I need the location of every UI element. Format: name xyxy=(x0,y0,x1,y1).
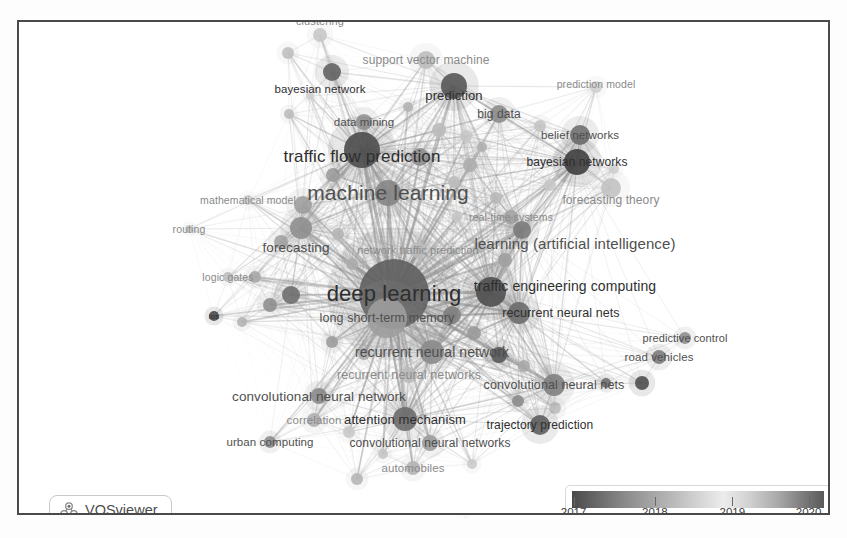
color-scale-legend: 2017201820192020 xyxy=(565,485,830,515)
node-unlabeled[interactable] xyxy=(237,317,247,327)
node-unlabeled[interactable] xyxy=(474,241,486,253)
legend-tick-2019 xyxy=(732,497,733,506)
node-prediction-model[interactable] xyxy=(590,81,602,93)
vosviewer-badge[interactable]: VOSviewer xyxy=(49,495,172,515)
node-unlabeled[interactable] xyxy=(512,395,524,407)
node-unlabeled[interactable] xyxy=(326,336,338,348)
node-correlation[interactable] xyxy=(307,413,321,427)
node-long-short-term-memory[interactable] xyxy=(367,298,407,338)
node-unlabeled[interactable] xyxy=(411,148,429,166)
node-unlabeled[interactable] xyxy=(249,271,261,283)
node-clustering[interactable] xyxy=(313,28,327,42)
network-edge xyxy=(248,114,289,200)
node-ios[interactable] xyxy=(209,311,219,321)
node-unlabeled[interactable] xyxy=(432,123,446,137)
network-graph xyxy=(19,22,828,513)
node-bayesian-network[interactable] xyxy=(323,63,341,81)
node-recurrent-neural-network[interactable] xyxy=(420,340,444,364)
node-unlabeled[interactable] xyxy=(448,176,460,188)
node-unlabeled[interactable] xyxy=(351,473,363,485)
node-unlabeled[interactable] xyxy=(378,449,388,459)
node-convolutional-neural-nets[interactable] xyxy=(543,374,565,396)
legend-tick-2017 xyxy=(574,497,575,506)
node-unlabeled[interactable] xyxy=(518,360,530,372)
network-edge xyxy=(214,316,270,442)
legend-label-2019: 2019 xyxy=(720,506,746,515)
legend-label-2020: 2020 xyxy=(796,506,822,515)
node-mathematical-model[interactable] xyxy=(243,195,253,205)
node-predictive-control[interactable] xyxy=(679,332,691,344)
node-support-vector-machine[interactable] xyxy=(417,51,435,69)
node-bayesian-networks[interactable] xyxy=(564,149,590,175)
legend-tick-2018 xyxy=(655,497,656,506)
node-convolutional-neural-networks[interactable] xyxy=(422,435,438,451)
node-trajectory-prediction[interactable] xyxy=(530,415,550,435)
node-unlabeled[interactable] xyxy=(467,459,477,469)
node-unlabeled[interactable] xyxy=(534,120,546,132)
node-unlabeled[interactable] xyxy=(498,253,512,267)
node-unlabeled[interactable] xyxy=(306,92,314,100)
legend-gradient-bar xyxy=(572,491,824,508)
vosviewer-badge-label: VOSviewer xyxy=(85,502,158,515)
map-frame: clusteringsupport vector machinebayesian… xyxy=(17,20,830,515)
network-edge xyxy=(214,316,314,420)
node-forecasting[interactable] xyxy=(290,217,312,239)
node-recurrent-neural-networks[interactable] xyxy=(401,367,417,383)
vosviewer-logo-icon xyxy=(59,500,79,515)
node-unlabeled[interactable] xyxy=(601,378,611,388)
network-edge xyxy=(214,316,319,396)
node-convolutional-neural-network[interactable] xyxy=(311,388,327,404)
node-unlabeled[interactable] xyxy=(403,102,413,112)
node-unlabeled[interactable] xyxy=(452,212,462,222)
node-unlabeled[interactable] xyxy=(460,130,472,142)
node-unlabeled[interactable] xyxy=(544,179,556,191)
node-automobiles[interactable] xyxy=(406,461,420,475)
network-edge xyxy=(189,200,248,229)
node-unlabeled[interactable] xyxy=(343,426,355,438)
node-unlabeled[interactable] xyxy=(477,142,487,152)
network-map-canvas[interactable]: clusteringsupport vector machinebayesian… xyxy=(19,22,828,513)
node-unlabeled[interactable] xyxy=(282,286,300,304)
legend-tick-2020 xyxy=(809,497,810,506)
network-edge xyxy=(242,322,270,442)
node-prediction[interactable] xyxy=(441,73,467,99)
node-unlabeled[interactable] xyxy=(467,326,481,340)
network-edge xyxy=(189,229,214,316)
network-edge xyxy=(288,53,426,60)
node-unlabeled[interactable] xyxy=(332,228,344,240)
node-traffic-flow-prediction[interactable] xyxy=(344,132,380,168)
node-unlabeled[interactable] xyxy=(635,376,649,390)
node-forecasting-theory[interactable] xyxy=(601,178,621,198)
node-urban-computing[interactable] xyxy=(264,436,276,448)
legend-label-2017: 2017 xyxy=(561,506,587,515)
vosviewer-screenshot: clusteringsupport vector machinebayesian… xyxy=(0,0,847,538)
node-unlabeled[interactable] xyxy=(284,109,294,119)
node-routing[interactable] xyxy=(185,225,193,233)
node-big-data[interactable] xyxy=(490,105,508,123)
node-logic-gates[interactable] xyxy=(223,272,233,282)
legend-label-2018: 2018 xyxy=(642,506,668,515)
node-road-vehicles[interactable] xyxy=(652,350,666,364)
node-attention-mechanism[interactable] xyxy=(393,407,417,431)
node-unlabeled[interactable] xyxy=(463,158,477,172)
node-unlabeled[interactable] xyxy=(491,347,507,363)
node-machine-learning[interactable] xyxy=(375,180,401,206)
node-unlabeled[interactable] xyxy=(490,192,502,204)
node-unlabeled[interactable] xyxy=(282,47,294,59)
node-recurrent-neural-nets[interactable] xyxy=(508,302,530,324)
node-learning-artificial-intelligence[interactable] xyxy=(513,221,531,239)
